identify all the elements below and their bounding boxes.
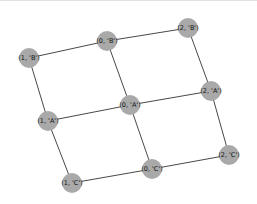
graph-node: (1, 'C') <box>61 173 82 193</box>
node-label: (1, 'C') <box>61 179 82 187</box>
node-label: (2, 'B') <box>177 24 198 32</box>
node-label: (0, 'A') <box>119 101 140 109</box>
edge-0B-2B <box>107 28 188 41</box>
node-label: (0, 'C') <box>141 165 162 173</box>
node-label: (2, 'A') <box>200 87 221 95</box>
node-label: (0, 'B') <box>96 37 117 45</box>
edge-0A-2A <box>130 91 211 105</box>
nodes-layer: (1, 'B')(0, 'B')(2, 'B')(1, 'A')(0, 'A')… <box>18 18 239 193</box>
graph-node: (0, 'A') <box>119 95 140 115</box>
graph-canvas: (1, 'B')(0, 'B')(2, 'B')(1, 'A')(0, 'A')… <box>0 0 257 204</box>
edge-0B-0A <box>107 41 130 105</box>
graph-node: (1, 'A') <box>37 111 58 131</box>
graph-node: (2, 'C') <box>218 145 239 165</box>
edge-1C-0C <box>72 169 152 183</box>
edge-0A-0C <box>130 105 152 169</box>
edge-1B-0B <box>29 41 107 58</box>
graph-node: (0, 'C') <box>141 159 162 179</box>
graph-node: (2, 'A') <box>200 81 221 101</box>
node-label: (1, 'A') <box>37 117 58 125</box>
graph-node: (2, 'B') <box>177 18 198 38</box>
edge-2B-2A <box>188 28 211 91</box>
graph-node: (0, 'B') <box>96 31 117 51</box>
graph-node: (1, 'B') <box>18 48 39 68</box>
network-graph: (1, 'B')(0, 'B')(2, 'B')(1, 'A')(0, 'A')… <box>0 1 257 204</box>
edge-1A-0A <box>48 105 130 121</box>
node-label: (1, 'B') <box>18 54 39 62</box>
node-label: (2, 'C') <box>218 151 239 159</box>
